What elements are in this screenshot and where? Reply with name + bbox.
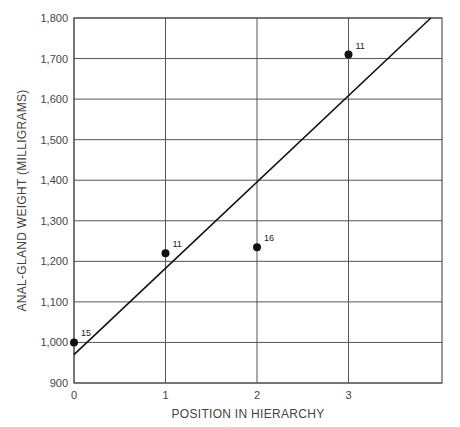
data-point — [345, 51, 353, 59]
y-tick-label: 1,200 — [40, 255, 68, 267]
y-tick-label: 1,000 — [40, 336, 68, 348]
x-tick-label: 2 — [254, 389, 260, 401]
data-point — [162, 249, 170, 257]
y-tick-label: 1,400 — [40, 174, 68, 186]
x-axis-ticks: 0123 — [71, 389, 352, 401]
regression-line — [74, 18, 431, 355]
plot-frame — [74, 18, 442, 383]
point-sample-size-label: 16 — [264, 233, 274, 243]
y-tick-label: 900 — [50, 377, 68, 389]
y-tick-label: 1,500 — [40, 134, 68, 146]
y-tick-label: 1,600 — [40, 93, 68, 105]
scatter-chart: 9001,0001,1001,2001,3001,4001,5001,6001,… — [0, 0, 460, 427]
data-points: 15111611 — [70, 41, 365, 347]
y-tick-label: 1,300 — [40, 215, 68, 227]
x-tick-label: 3 — [345, 389, 351, 401]
y-tick-label: 1,700 — [40, 53, 68, 65]
y-axis-ticks: 9001,0001,1001,2001,3001,4001,5001,6001,… — [40, 12, 68, 389]
y-tick-label: 1,800 — [40, 12, 68, 24]
data-point — [70, 338, 78, 346]
point-sample-size-label: 15 — [81, 328, 91, 338]
point-sample-size-label: 11 — [173, 239, 182, 249]
x-tick-label: 0 — [71, 389, 77, 401]
x-axis-title: POSITION IN HIERARCHY — [172, 407, 325, 421]
y-axis-title: ANAL-GLAND WEIGHT (MILLIGRAMS) — [15, 89, 29, 311]
data-point — [253, 243, 261, 251]
point-sample-size-label: 11 — [356, 41, 365, 51]
y-tick-label: 1,100 — [40, 296, 68, 308]
grid-lines — [74, 18, 442, 383]
x-tick-label: 1 — [162, 389, 168, 401]
